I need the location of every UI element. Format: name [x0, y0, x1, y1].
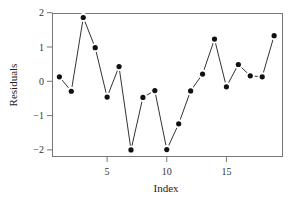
- data-point: [140, 95, 145, 100]
- x-tick-label: 15: [221, 166, 231, 177]
- y-tick-label: 1: [39, 42, 44, 53]
- residual-plot: −2−1012 51015 Index Residuals: [0, 0, 295, 203]
- y-axis: −2−1012: [33, 7, 52, 155]
- data-point: [116, 64, 121, 69]
- residual-points: [55, 13, 279, 154]
- data-point: [128, 147, 133, 152]
- data-point: [260, 74, 265, 79]
- data-point: [93, 45, 98, 50]
- y-tick-label: 0: [39, 76, 44, 87]
- x-axis: 51015: [105, 157, 232, 178]
- data-point: [152, 88, 157, 93]
- data-point: [176, 121, 181, 126]
- y-tick-label: −1: [33, 110, 44, 121]
- data-point: [248, 73, 253, 78]
- data-point: [164, 147, 169, 152]
- data-point: [200, 71, 205, 76]
- data-point: [224, 84, 229, 89]
- residual-line: [59, 18, 274, 150]
- data-point: [81, 15, 86, 20]
- data-point: [272, 33, 277, 38]
- y-axis-title: Residuals: [7, 64, 19, 107]
- plot-frame: [53, 14, 283, 157]
- y-tick-label: 2: [39, 7, 44, 18]
- data-point: [188, 88, 193, 93]
- data-point: [105, 94, 110, 99]
- data-point: [236, 62, 241, 67]
- x-tick-label: 5: [105, 166, 110, 177]
- x-tick-label: 10: [162, 166, 172, 177]
- x-axis-title: Index: [153, 182, 179, 194]
- data-point: [57, 74, 62, 79]
- data-point: [212, 37, 217, 42]
- y-tick-label: −2: [33, 144, 44, 155]
- data-point: [69, 89, 74, 94]
